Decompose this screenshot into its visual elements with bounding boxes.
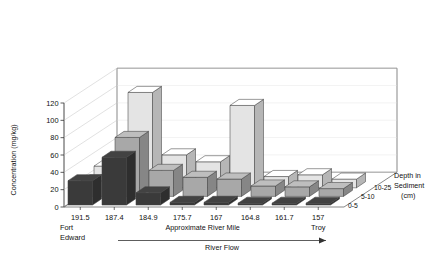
x-tick-label-175.7: 175.7 bbox=[173, 213, 192, 222]
y-tick-label: 60 bbox=[50, 151, 58, 160]
bar-front-face bbox=[217, 179, 242, 196]
x-tick-label-191.5: 191.5 bbox=[71, 213, 90, 222]
x-axis-title: Approximate River Mile bbox=[166, 223, 240, 232]
bar-5-10-175.7 bbox=[183, 171, 217, 196]
z-axis-title-1: Depth in bbox=[394, 171, 421, 180]
x-tick-label-164.8: 164.8 bbox=[241, 213, 260, 222]
y-tick-label: 80 bbox=[50, 133, 58, 142]
bar-front-face bbox=[285, 187, 310, 197]
y-gridline bbox=[64, 120, 117, 155]
bar-front-face bbox=[68, 181, 93, 205]
depth-legend-10-25: 10-25 bbox=[374, 184, 392, 191]
bar-front-face bbox=[170, 202, 195, 205]
river-flow-arrow-head bbox=[319, 238, 326, 244]
bar-front-face bbox=[183, 177, 208, 196]
y-tick-label: 120 bbox=[46, 99, 58, 108]
bar-side-face bbox=[255, 99, 264, 187]
x-tick-label-184.9: 184.9 bbox=[139, 213, 158, 222]
bar-5-10-164.8 bbox=[251, 180, 285, 197]
y-tick-label: 0 bbox=[54, 203, 58, 212]
chart-3d-bar-concentration: 020406080100120Concentration (mg/kg)191.… bbox=[0, 0, 448, 262]
y-tick-label: 20 bbox=[50, 185, 58, 194]
bar-front-face bbox=[136, 193, 161, 205]
z-axis-title-2: Sediment bbox=[394, 181, 424, 190]
x-tick-label-157: 157 bbox=[312, 213, 324, 222]
bar-0-5-187.4 bbox=[102, 151, 136, 205]
y-axis-title: Concentration (mg/kg) bbox=[9, 124, 18, 195]
y-gridline bbox=[64, 86, 117, 121]
bar-0-5-191.5 bbox=[68, 175, 102, 205]
bar-0-5-184.9 bbox=[136, 187, 170, 205]
x-tick-label-187.4: 187.4 bbox=[105, 213, 124, 222]
bar-front-face bbox=[251, 186, 276, 196]
depth-legend-5-10: 5-10 bbox=[361, 193, 375, 200]
river-flow-label: River Flow bbox=[205, 243, 240, 252]
y-gridline bbox=[64, 103, 117, 138]
depth-legend-0-5: 0-5 bbox=[348, 202, 358, 209]
place-label-edward: Edward bbox=[60, 233, 85, 242]
y-tick-label: 40 bbox=[50, 168, 58, 177]
x-tick-label-161.7: 161.7 bbox=[275, 213, 294, 222]
z-axis-title-3: (cm) bbox=[401, 191, 415, 200]
place-label-troy: Troy bbox=[311, 223, 326, 232]
bar-front-face bbox=[204, 202, 229, 205]
chart-canvas: 020406080100120Concentration (mg/kg)191.… bbox=[0, 0, 448, 262]
y-tick-label: 100 bbox=[46, 116, 58, 125]
place-label-fort: Fort bbox=[60, 223, 73, 232]
bar-side-face bbox=[127, 151, 136, 205]
bar-front-face bbox=[102, 157, 127, 205]
bar-front-face bbox=[319, 189, 344, 197]
x-tick-label-167: 167 bbox=[210, 213, 222, 222]
bar-5-10-167 bbox=[217, 173, 251, 196]
y-gridline bbox=[64, 68, 117, 103]
